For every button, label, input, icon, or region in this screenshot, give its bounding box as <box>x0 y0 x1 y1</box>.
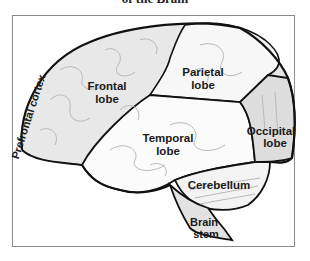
label-brain-stem-line1: Brain <box>190 216 218 228</box>
label-frontal-lobe-line2: lobe <box>95 93 119 105</box>
label-occipital-lobe-line2: lobe <box>263 137 287 149</box>
label-parietal-lobe-line1: Parietal <box>182 66 224 78</box>
label-temporal-lobe-line2: lobe <box>156 145 180 157</box>
label-parietal-lobe-line2: lobe <box>191 79 215 91</box>
label-occipital-lobe-line1: Occipital <box>247 125 296 137</box>
label-cerebellum: Cerebellum <box>188 179 251 191</box>
label-frontal-lobe-line1: Frontal <box>88 80 127 92</box>
brain-diagram: Prefrontal cortex Frontal lobe Parietal … <box>0 0 310 261</box>
label-temporal-lobe-line1: Temporal <box>143 132 194 144</box>
label-brain-stem-line2: stem <box>193 228 219 240</box>
